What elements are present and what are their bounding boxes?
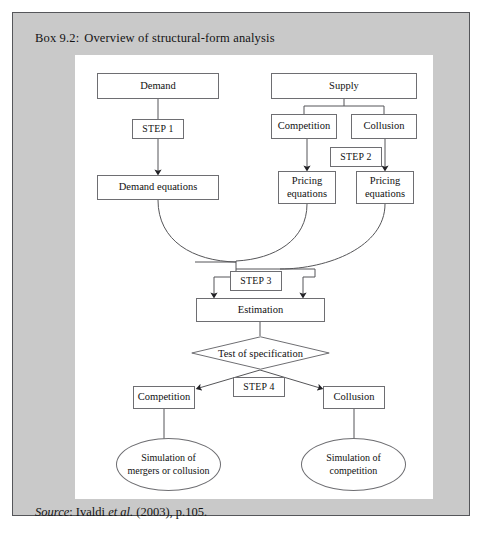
node-pricing-equations-left-label: Pricingequations — [287, 175, 327, 200]
source-separator: : — [69, 505, 76, 519]
box-frame: Box 9.2:Overview of structural-form anal… — [12, 12, 470, 516]
node-demand-label: Demand — [140, 80, 176, 92]
node-simulation-mergers-or-collusion-label: Simulation ofmergers or collusion — [127, 452, 209, 477]
diamond-shape — [192, 337, 329, 369]
node-collusion-top-label: Collusion — [364, 120, 405, 132]
source-prefix: Source — [35, 505, 69, 519]
box-title-text: Overview of structural-form analysis — [84, 31, 274, 45]
node-pricing-equations-right[interactable]: Pricingequations — [356, 171, 414, 204]
node-simulation-competition[interactable]: Simulation ofcompetition — [301, 438, 406, 491]
node-step-4[interactable]: STEP 4 — [233, 377, 285, 397]
node-competition-top[interactable]: Competition — [271, 114, 337, 139]
node-competition-bottom-label: Competition — [138, 391, 191, 403]
node-estimation[interactable]: Estimation — [196, 298, 325, 322]
node-pricing-equations-left[interactable]: Pricingequations — [278, 171, 336, 204]
node-collusion-top[interactable]: Collusion — [351, 114, 417, 139]
edge-pricingleft-curve — [236, 204, 307, 261]
node-estimation-label: Estimation — [238, 304, 284, 316]
node-demand-equations[interactable]: Demand equations — [97, 175, 219, 200]
box-source: Source: Ivaldi et al. (2003), p.105. — [35, 505, 207, 520]
node-simulation-mergers-or-collusion[interactable]: Simulation ofmergers or collusion — [116, 438, 221, 491]
node-step-3[interactable]: STEP 3 — [230, 271, 282, 291]
edge-demandeq-curve — [158, 200, 236, 262]
node-competition-top-label: Competition — [278, 120, 331, 132]
node-supply[interactable]: Supply — [271, 73, 417, 99]
node-step-3-label: STEP 3 — [240, 275, 272, 286]
node-demand-equations-label: Demand equations — [119, 181, 197, 193]
node-step-2[interactable]: STEP 2 — [330, 147, 382, 167]
node-competition-bottom[interactable]: Competition — [133, 386, 195, 409]
source-etal: et al. — [108, 505, 133, 519]
node-collusion-bottom-label: Collusion — [334, 391, 375, 403]
box-title-label: Box 9.2: — [35, 31, 79, 45]
source-rest: (2003), p.105. — [133, 505, 207, 519]
figure-root: Box 9.2:Overview of structural-form anal… — [0, 0, 485, 533]
node-step-4-label: STEP 4 — [243, 381, 275, 392]
source-author: Ivaldi — [76, 505, 108, 519]
diagram-canvas: Demand Supply STEP 1 Competition Collusi… — [75, 55, 433, 499]
node-supply-label: Supply — [329, 80, 359, 92]
node-step-2-label: STEP 2 — [340, 151, 372, 162]
node-step-1[interactable]: STEP 1 — [132, 119, 184, 139]
node-test-of-specification[interactable]: Test of specification — [191, 336, 330, 370]
node-demand[interactable]: Demand — [97, 73, 219, 99]
node-simulation-competition-label: Simulation ofcompetition — [326, 452, 381, 477]
node-collusion-bottom[interactable]: Collusion — [323, 386, 385, 409]
node-step-1-label: STEP 1 — [142, 123, 174, 134]
box-title: Box 9.2:Overview of structural-form anal… — [35, 31, 275, 46]
node-pricing-equations-right-label: Pricingequations — [365, 175, 405, 200]
